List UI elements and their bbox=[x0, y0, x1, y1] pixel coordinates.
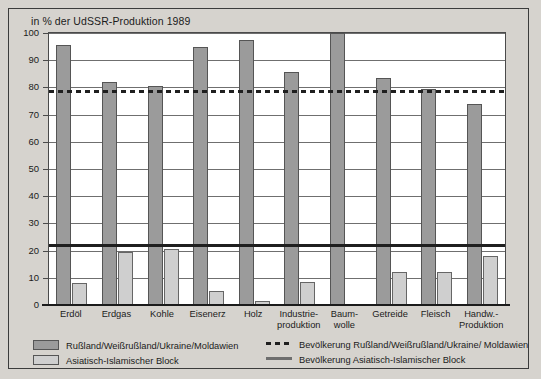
x-axis-tick-label-line: Fleisch bbox=[421, 309, 450, 320]
legend-item: Rußland/Weißrußland/Ukraine/Moldawien bbox=[33, 340, 238, 351]
bar bbox=[376, 78, 391, 305]
y-tick-20 bbox=[43, 251, 49, 252]
legend-dashed-line-icon bbox=[266, 342, 292, 345]
bar bbox=[330, 33, 345, 305]
bar bbox=[72, 283, 87, 305]
y-axis-tick-label: 0 bbox=[9, 299, 39, 310]
y-axis-tick-label: 30 bbox=[9, 217, 39, 228]
legend-item-label: Bevölkerung Asiatisch-Islamischer Block bbox=[299, 355, 465, 365]
y-axis-tick-label: 70 bbox=[9, 108, 39, 119]
legend-solid-line-icon bbox=[266, 357, 292, 360]
y-tick-40 bbox=[43, 196, 49, 197]
legend-item-label: Asiatisch-Islamischer Block bbox=[66, 356, 179, 366]
x-axis-tick-label-line: Erdgas bbox=[102, 309, 131, 320]
x-axis-tick-label-line: Holz bbox=[244, 309, 263, 320]
x-axis-tick-label-line: Industrie- bbox=[277, 309, 320, 320]
gridline-80 bbox=[49, 87, 505, 88]
x-axis-tick-label: Erdgas bbox=[102, 309, 131, 320]
y-tick-30 bbox=[43, 223, 49, 224]
x-axis-tick-label: Getreide bbox=[372, 309, 408, 320]
y-tick-100 bbox=[43, 33, 49, 34]
y-tick-80 bbox=[43, 87, 49, 88]
bar bbox=[392, 272, 407, 305]
x-axis-tick-label-line: Baum- bbox=[331, 309, 358, 320]
x-axis-tick-label: Baum-wolle bbox=[331, 309, 358, 330]
x-axis-tick-label-line: Handw.- bbox=[459, 309, 503, 320]
legend-item: Bevölkerung Asiatisch-Islamischer Block bbox=[266, 355, 465, 365]
x-axis-tick-label: Eisenerz bbox=[190, 309, 226, 320]
y-tick-70 bbox=[43, 115, 49, 116]
x-axis-tick-label: Industrie-produktion bbox=[277, 309, 320, 330]
bar bbox=[300, 282, 315, 305]
x-axis-tick-label-line: wolle bbox=[331, 320, 358, 331]
x-axis-tick-label-line: Erdöl bbox=[60, 309, 82, 320]
gridline-70 bbox=[49, 115, 505, 116]
y-axis-tick-label: 90 bbox=[9, 54, 39, 65]
bar bbox=[209, 291, 224, 305]
x-axis-tick-label-line: Produktion bbox=[459, 320, 503, 331]
chart-figure: in % der UdSSR-Produktion 1989 010203040… bbox=[8, 8, 529, 369]
y-tick-90 bbox=[43, 60, 49, 61]
legend-swatch-dark-icon bbox=[33, 340, 59, 350]
bar bbox=[483, 256, 498, 305]
legend-item-label: Rußland/Weißrußland/Ukraine/Moldawien bbox=[66, 341, 238, 351]
chart-legend: Rußland/Weißrußland/Ukraine/MoldawienAsi… bbox=[9, 340, 528, 370]
gridline-60 bbox=[49, 142, 505, 143]
y-tick-10 bbox=[43, 278, 49, 279]
bar bbox=[164, 249, 179, 305]
gridline-40 bbox=[49, 196, 505, 197]
bar bbox=[467, 104, 482, 305]
gridline-50 bbox=[49, 169, 505, 170]
bar bbox=[239, 40, 254, 305]
x-axis-tick-label: Fleisch bbox=[421, 309, 450, 320]
x-axis-tick-label: Holz bbox=[244, 309, 263, 320]
bar bbox=[56, 45, 71, 305]
x-axis-baseline bbox=[42, 304, 510, 306]
y-tick-60 bbox=[43, 142, 49, 143]
y-axis-tick-label: 80 bbox=[9, 81, 39, 92]
y-axis-tick-label: 40 bbox=[9, 190, 39, 201]
y-axis-tick-label: 10 bbox=[9, 271, 39, 282]
bar bbox=[193, 47, 208, 305]
x-axis-tick-label: Handw.-Produktion bbox=[459, 309, 503, 330]
plot-area bbox=[48, 32, 506, 305]
reference-line-dashed bbox=[49, 90, 505, 93]
bar bbox=[284, 72, 299, 305]
y-axis-tick-label: 50 bbox=[9, 163, 39, 174]
bar bbox=[437, 272, 452, 305]
bar bbox=[102, 82, 117, 305]
legend-swatch-light-icon bbox=[33, 355, 59, 365]
bar bbox=[148, 86, 163, 305]
bar bbox=[421, 89, 436, 305]
y-tick-50 bbox=[43, 169, 49, 170]
x-axis-tick-label: Kohle bbox=[150, 309, 174, 320]
y-axis-tick-label: 100 bbox=[9, 27, 39, 38]
legend-item: Asiatisch-Islamischer Block bbox=[33, 355, 179, 366]
legend-item: Bevölkerung Rußland/Weißrußland/Ukraine/… bbox=[266, 340, 528, 350]
gridline-100 bbox=[49, 33, 505, 34]
y-axis-tick-label: 60 bbox=[9, 135, 39, 146]
y-axis-tick-label: 20 bbox=[9, 244, 39, 255]
gridline-30 bbox=[49, 223, 505, 224]
x-axis-tick-label-line: Eisenerz bbox=[190, 309, 226, 320]
legend-item-label: Bevölkerung Rußland/Weißrußland/Ukraine/… bbox=[299, 340, 528, 350]
x-axis-tick-label-line: produktion bbox=[277, 320, 320, 331]
x-axis-tick-label-line: Kohle bbox=[150, 309, 174, 320]
gridline-90 bbox=[49, 60, 505, 61]
bar bbox=[118, 252, 133, 305]
chart-title: in % der UdSSR-Produktion 1989 bbox=[31, 15, 190, 27]
x-axis-tick-label: Erdöl bbox=[60, 309, 82, 320]
x-axis-tick-label-line: Getreide bbox=[372, 309, 408, 320]
reference-line-solid bbox=[49, 244, 505, 247]
